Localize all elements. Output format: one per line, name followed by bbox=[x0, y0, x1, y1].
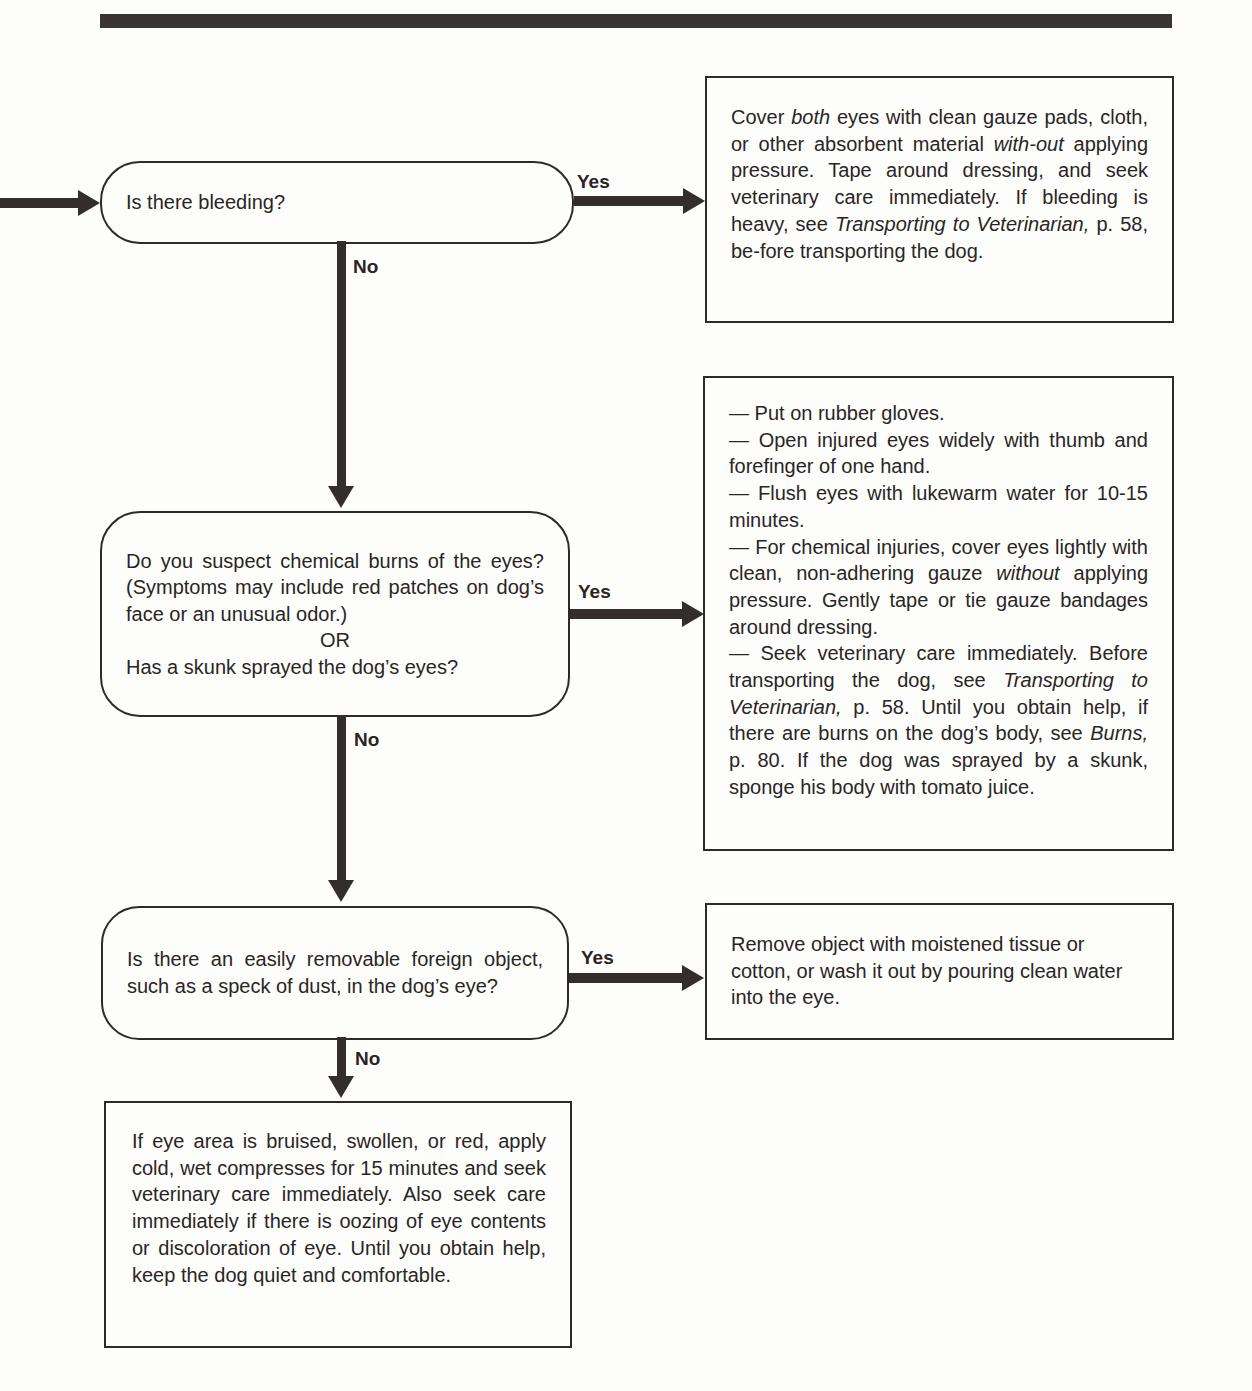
step: — For chemical injuries, cover eyes ligh… bbox=[729, 534, 1148, 641]
entry-arrow-head-icon bbox=[78, 190, 100, 216]
text: Cover bbox=[731, 106, 791, 128]
decision-bleeding: Is there bleeding? bbox=[100, 161, 574, 244]
header-rule bbox=[100, 14, 1172, 28]
chemical-no-arrow-head-icon bbox=[328, 880, 354, 902]
text: If eye area is bruised, swollen, or red,… bbox=[132, 1130, 546, 1286]
chemical-yes-label: Yes bbox=[578, 581, 611, 603]
entry-arrow-shaft bbox=[0, 198, 80, 208]
decision-chemical-or: OR bbox=[126, 627, 544, 654]
action-chemical-yes: — Put on rubber gloves. — Open injured e… bbox=[703, 376, 1174, 851]
action-bleeding-yes: Cover both eyes with clean gauze pads, c… bbox=[705, 76, 1174, 323]
bleeding-no-label: No bbox=[353, 256, 378, 278]
foreign-object-yes-arrow-shaft bbox=[569, 973, 685, 983]
bleeding-yes-label: Yes bbox=[577, 171, 610, 193]
emphasis: with-out bbox=[994, 133, 1064, 155]
action-foreign-object-no: If eye area is bruised, swollen, or red,… bbox=[104, 1101, 572, 1348]
chemical-no-label: No bbox=[354, 729, 379, 751]
foreign-object-no-arrow-head-icon bbox=[328, 1076, 354, 1098]
text: p. 80. If the dog was sprayed by a skunk… bbox=[729, 749, 1148, 798]
chemical-no-arrow-shaft bbox=[337, 715, 346, 883]
foreign-object-yes-arrow-head-icon bbox=[682, 965, 704, 991]
chemical-yes-arrow-shaft bbox=[570, 609, 685, 619]
decision-foreign-object-question: Is there an easily removable foreign obj… bbox=[127, 946, 543, 999]
foreign-object-no-label: No bbox=[355, 1048, 380, 1070]
bleeding-yes-arrow-head-icon bbox=[683, 188, 705, 214]
text: Remove object with moistened tissue or c… bbox=[731, 933, 1122, 1008]
bleeding-no-arrow-shaft bbox=[337, 241, 346, 489]
decision-bleeding-question: Is there bleeding? bbox=[126, 189, 548, 216]
step: — Flush eyes with lukewarm water for 10-… bbox=[729, 480, 1148, 533]
decision-chemical: Do you suspect chemical burns of the eye… bbox=[100, 511, 570, 717]
foreign-object-yes-label: Yes bbox=[581, 947, 614, 969]
step: — Put on rubber gloves. bbox=[729, 400, 1148, 427]
step: — Open injured eyes widely with thumb an… bbox=[729, 427, 1148, 480]
bleeding-yes-arrow-shaft bbox=[574, 196, 686, 206]
cross-reference: Burns, bbox=[1090, 722, 1148, 744]
bleeding-no-arrow-head-icon bbox=[328, 486, 354, 508]
step: — Seek veterinary care immediately. Befo… bbox=[729, 640, 1148, 800]
chemical-yes-arrow-head-icon bbox=[682, 601, 704, 627]
foreign-object-no-arrow-shaft bbox=[337, 1037, 346, 1079]
decision-chemical-question-2: Has a skunk sprayed the dog’s eyes? bbox=[126, 654, 544, 681]
cross-reference: Transporting to Veterinarian, bbox=[835, 213, 1089, 235]
decision-chemical-question: Do you suspect chemical burns of the eye… bbox=[126, 548, 544, 628]
emphasis: without bbox=[996, 562, 1059, 584]
action-foreign-object-yes: Remove object with moistened tissue or c… bbox=[705, 903, 1174, 1040]
decision-foreign-object: Is there an easily removable foreign obj… bbox=[101, 906, 569, 1040]
emphasis: both bbox=[791, 106, 830, 128]
